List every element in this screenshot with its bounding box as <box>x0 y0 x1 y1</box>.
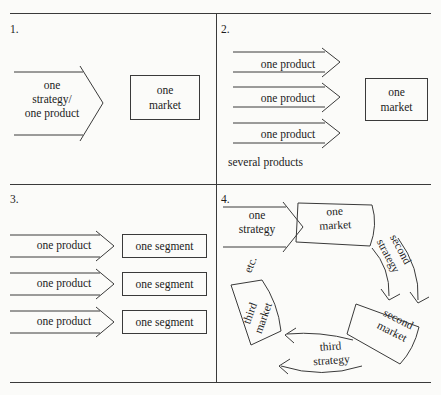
panel-2-arrow-label-3: one product <box>238 127 338 141</box>
panel-4-cycle-arrow-label-third-strategy: third strategy <box>299 338 363 370</box>
panel-4-cycle-arrow-label-second-strategy: second strategy <box>368 220 421 286</box>
vertical-divider-rule <box>216 13 217 382</box>
panel-4-number: 4. <box>221 194 230 206</box>
panel-3-arrow-label-3: one product <box>14 314 114 328</box>
panel-3-arrow-label-2: one product <box>14 276 114 290</box>
panel-3-number: 3. <box>10 194 19 206</box>
panel-4-arrow-label: one strategy <box>222 208 292 236</box>
panel-4-etc-label: etc. <box>240 251 262 278</box>
panel-2-caption: several products <box>228 155 348 169</box>
panel-3-segment-box-3: one segment <box>122 310 207 334</box>
bottom-border-rule <box>10 382 431 383</box>
panel-2-market-box: one market <box>365 78 428 121</box>
panel-1-market-box: one market <box>130 75 200 120</box>
panel-3-segment-box-2: one segment <box>122 272 207 296</box>
panel-1-number: 1. <box>10 24 19 36</box>
panel-4-cycle-box-label-third-market: third market <box>234 284 280 348</box>
panel-3-segment-box-1: one segment <box>122 234 207 258</box>
diagram-figure: 1. one strategy/ one product one market … <box>0 0 441 395</box>
panel-2-arrow-label-1: one product <box>238 57 338 71</box>
panel-2-arrow-label-2: one product <box>238 91 338 105</box>
panel-4-cycle-box-label-second-market: second market <box>363 300 427 351</box>
panel-2-number: 2. <box>221 24 230 36</box>
panel-3-arrow-label-1: one product <box>14 238 114 252</box>
middle-divider-rule <box>10 184 431 185</box>
panel-4-cycle-box-label-one-market: one market <box>301 203 368 234</box>
panel-1-arrow-label: one strategy/ one product <box>8 78 96 120</box>
top-border-rule <box>10 13 431 14</box>
